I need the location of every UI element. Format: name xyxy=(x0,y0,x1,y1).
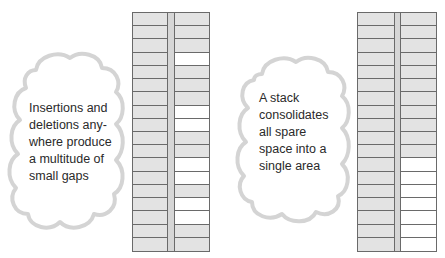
caption-line: A stack xyxy=(259,90,329,107)
caption-line: single area xyxy=(259,158,329,175)
used-slot xyxy=(358,53,394,66)
used-slot xyxy=(358,66,394,79)
stack-divider xyxy=(168,13,175,251)
used-slot xyxy=(133,92,167,105)
free-slot xyxy=(401,198,436,211)
used-slot xyxy=(133,106,167,119)
free-slot xyxy=(401,238,436,251)
used-slot xyxy=(133,158,167,171)
used-slot xyxy=(133,238,167,251)
used-slot xyxy=(133,172,167,185)
caption-line: small gaps xyxy=(29,168,112,185)
used-slot xyxy=(401,39,436,52)
used-slot xyxy=(175,39,209,52)
used-slot xyxy=(133,119,167,132)
used-slot xyxy=(175,92,209,105)
used-slot xyxy=(358,26,394,39)
used-slot xyxy=(358,79,394,92)
used-slot xyxy=(358,145,394,158)
used-slot xyxy=(133,13,167,26)
caption-line: consolidates xyxy=(259,107,329,124)
caption-line: Insertions and xyxy=(29,100,112,117)
free-slot xyxy=(175,198,209,211)
used-slot xyxy=(358,13,394,26)
used-slot xyxy=(133,132,167,145)
used-slot xyxy=(175,145,209,158)
used-slot xyxy=(175,26,209,39)
free-slot xyxy=(175,211,209,224)
used-slot xyxy=(133,145,167,158)
used-slot xyxy=(401,53,436,66)
used-slot xyxy=(358,185,394,198)
stack-left-column xyxy=(133,13,168,251)
used-slot xyxy=(401,132,436,145)
used-slot xyxy=(401,66,436,79)
used-slot xyxy=(175,66,209,79)
right-caption: A stack consolidates all spare space int… xyxy=(259,90,329,175)
used-slot xyxy=(358,106,394,119)
caption-line: all spare xyxy=(259,124,329,141)
used-slot xyxy=(175,132,209,145)
used-slot xyxy=(175,13,209,26)
caption-line: space into a xyxy=(259,141,329,158)
free-slot xyxy=(401,158,436,171)
used-slot xyxy=(133,185,167,198)
free-slot xyxy=(175,119,209,132)
used-slot xyxy=(133,198,167,211)
caption-line: deletions any- xyxy=(29,117,112,134)
caption-line: a multitude of xyxy=(29,151,112,168)
used-slot xyxy=(358,158,394,171)
used-slot xyxy=(133,211,167,224)
stack-right-column xyxy=(401,13,436,251)
used-slot xyxy=(175,185,209,198)
used-slot xyxy=(401,79,436,92)
free-slot xyxy=(175,106,209,119)
left-thought-cloud: Insertions and deletions any- where prod… xyxy=(6,48,130,236)
used-slot xyxy=(401,106,436,119)
fragmented-memory-stack xyxy=(132,12,210,252)
used-slot xyxy=(401,92,436,105)
used-slot xyxy=(133,26,167,39)
used-slot xyxy=(401,26,436,39)
consolidated-memory-stack xyxy=(357,12,437,252)
free-slot xyxy=(401,211,436,224)
used-slot xyxy=(175,79,209,92)
used-slot xyxy=(358,225,394,238)
free-slot xyxy=(175,172,209,185)
used-slot xyxy=(401,13,436,26)
used-slot xyxy=(358,238,394,251)
used-slot xyxy=(175,225,209,238)
used-slot xyxy=(133,39,167,52)
used-slot xyxy=(133,79,167,92)
right-thought-cloud: A stack consolidates all spare space int… xyxy=(234,52,356,224)
caption-line: where produce xyxy=(29,134,112,151)
used-slot xyxy=(175,238,209,251)
stack-right-column xyxy=(175,13,209,251)
left-caption: Insertions and deletions any- where prod… xyxy=(29,100,112,185)
used-slot xyxy=(401,119,436,132)
free-slot xyxy=(175,158,209,171)
used-slot xyxy=(358,39,394,52)
free-slot xyxy=(401,172,436,185)
used-slot xyxy=(358,132,394,145)
used-slot xyxy=(133,66,167,79)
stack-left-column xyxy=(358,13,395,251)
used-slot xyxy=(358,198,394,211)
used-slot xyxy=(358,119,394,132)
used-slot xyxy=(358,172,394,185)
used-slot xyxy=(358,92,394,105)
free-slot xyxy=(401,185,436,198)
free-slot xyxy=(175,53,209,66)
used-slot xyxy=(133,225,167,238)
free-slot xyxy=(401,225,436,238)
used-slot xyxy=(358,211,394,224)
used-slot xyxy=(401,145,436,158)
used-slot xyxy=(133,53,167,66)
